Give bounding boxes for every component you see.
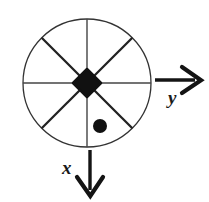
diagram-canvas xyxy=(0,0,209,202)
wheel-axes-diagram: y x xyxy=(0,0,209,202)
point-mass-dot-icon xyxy=(93,119,107,133)
y-axis-label: y xyxy=(168,88,176,107)
y-axis-arrow-icon xyxy=(155,67,201,93)
x-axis-arrow-icon xyxy=(77,150,103,196)
x-axis-label: x xyxy=(62,158,72,177)
